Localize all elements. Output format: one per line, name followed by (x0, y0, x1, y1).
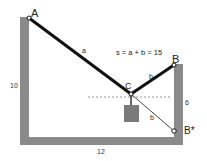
pulley-reflection-diagram (0, 0, 207, 161)
bottom-width-label: 12 (97, 148, 105, 155)
left-wall (20, 17, 29, 145)
point-b-star-marker (172, 129, 176, 133)
point-b-label: B (172, 54, 179, 65)
point-c-marker (129, 92, 133, 96)
point-c-label: C (125, 82, 132, 91)
weight-block (124, 105, 139, 122)
left-height-label: 10 (10, 82, 18, 89)
bottom-wall (20, 137, 183, 145)
equation-label: s = a + b = 15 (116, 49, 162, 57)
segment-a-label: a (82, 47, 86, 54)
point-a-label: A (31, 8, 38, 19)
right-height-label: 6 (185, 99, 189, 106)
segment-b-reflected-label: b (150, 114, 154, 121)
segment-b-upper-label: b (149, 73, 153, 80)
point-b-star-label: B* (184, 126, 195, 136)
